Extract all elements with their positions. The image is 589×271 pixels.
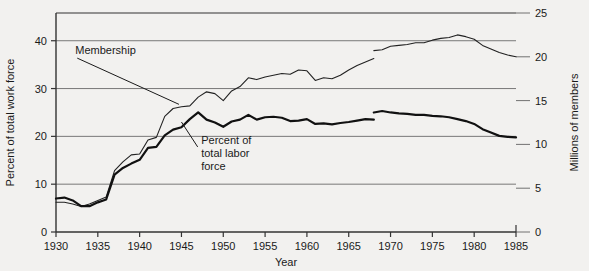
y2-tick-label-20: 20 <box>535 51 547 63</box>
y2-axis-title: Millions of members <box>568 73 580 171</box>
membership-annotation-label: Membership <box>75 44 136 56</box>
chart-figure: 0102030400510152025193019351940194519501… <box>0 0 589 271</box>
y-tick-label-10: 10 <box>35 178 47 190</box>
y2-tick-label-5: 5 <box>535 182 541 194</box>
x-axis-title: Year <box>275 256 298 268</box>
membership-leader-line <box>77 58 179 104</box>
x-tick-label-1945: 1945 <box>169 240 193 252</box>
y2-tick-label-10: 10 <box>535 138 547 150</box>
percent-annotation-label-line-2: force <box>201 160 225 172</box>
y2-tick-label-0: 0 <box>535 226 541 238</box>
percent-leader-line <box>181 122 197 147</box>
percent-annotation-label-line-0: Percent of <box>201 134 252 146</box>
x-tick-label-1950: 1950 <box>211 240 235 252</box>
y-tick-label-40: 40 <box>35 35 47 47</box>
y-tick-label-30: 30 <box>35 83 47 95</box>
x-tick-label-1985: 1985 <box>504 240 528 252</box>
x-tick-label-1970: 1970 <box>378 240 402 252</box>
x-tick-label-1940: 1940 <box>127 240 151 252</box>
y-axis-title: Percent of total work force <box>4 59 16 187</box>
chart-canvas: 0102030400510152025193019351940194519501… <box>0 0 589 271</box>
percent-annotation-label-line-1: total labor <box>201 147 250 159</box>
series-membership <box>56 35 516 207</box>
y-tick-label-20: 20 <box>35 130 47 142</box>
x-tick-label-1935: 1935 <box>86 240 110 252</box>
x-tick-label-1975: 1975 <box>420 240 444 252</box>
x-tick-label-1960: 1960 <box>295 240 319 252</box>
series-line-segment-1 <box>374 35 516 57</box>
series-percent-of-total-labor-force <box>56 111 516 206</box>
y2-tick-label-25: 25 <box>535 7 547 19</box>
y2-tick-label-15: 15 <box>535 95 547 107</box>
x-tick-label-1980: 1980 <box>462 240 486 252</box>
x-tick-label-1930: 1930 <box>44 240 68 252</box>
x-tick-label-1955: 1955 <box>253 240 277 252</box>
series-line-segment-1 <box>374 111 516 137</box>
x-tick-label-1965: 1965 <box>336 240 360 252</box>
y-tick-label-0: 0 <box>41 226 47 238</box>
